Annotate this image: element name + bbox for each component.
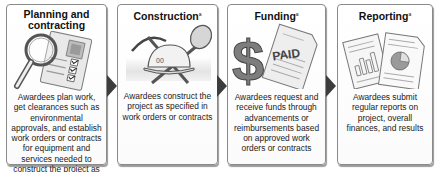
step-description: Awardees plan work, get clearances such … bbox=[11, 92, 102, 172]
arrow-right-icon bbox=[326, 75, 336, 97]
svg-text:$: $ bbox=[232, 28, 264, 89]
step-construction: Constructiona bbox=[117, 4, 218, 165]
hardhat-pickaxe-shovel-icon: 00 bbox=[118, 23, 217, 85]
step-title-text: Reporting bbox=[359, 10, 409, 22]
step-title: Constructiona bbox=[118, 9, 217, 22]
step-title-text: Funding bbox=[254, 10, 295, 22]
step-description: Awardees submit regular reports on proje… bbox=[342, 92, 428, 133]
checklist-magnifier-icon bbox=[7, 31, 106, 91]
arrow-right-icon bbox=[107, 75, 117, 97]
footnote-marker: a bbox=[408, 11, 411, 17]
arrow-right-icon bbox=[217, 75, 227, 97]
step-funding: Fundinga PAID $ Awardees request and rec… bbox=[227, 4, 326, 165]
process-flow-diagram: Planning and contracting bbox=[0, 0, 437, 172]
step-title: Fundinga bbox=[228, 9, 325, 22]
dollar-paid-invoice-icon: PAID $ bbox=[228, 23, 325, 89]
step-title-line2: contracting bbox=[28, 19, 85, 31]
step-reporting: Reportinga bbox=[337, 4, 433, 165]
footnote-marker: a bbox=[296, 11, 299, 17]
step-description: Awardees construct the project as specif… bbox=[122, 91, 213, 122]
step-title: Planning and contracting bbox=[7, 9, 106, 31]
step-planning-and-contracting: Planning and contracting bbox=[6, 4, 107, 165]
footnote-marker: a bbox=[199, 11, 202, 17]
step-description: Awardees request and receive funds throu… bbox=[232, 92, 321, 154]
svg-text:00: 00 bbox=[156, 57, 164, 64]
reports-charts-icon bbox=[338, 29, 432, 89]
step-title-text: Construction bbox=[133, 10, 198, 22]
step-title: Reportinga bbox=[338, 9, 432, 22]
